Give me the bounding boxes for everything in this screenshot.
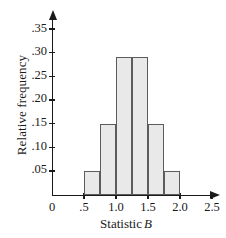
y-tick	[49, 52, 55, 53]
x-tick-label: 1.0	[100, 200, 132, 215]
x-axis-label-symbol: B	[142, 216, 152, 231]
x-tick-label: .5	[68, 200, 100, 215]
x-axis-label: StatisticB	[52, 216, 200, 232]
y-tick	[49, 170, 55, 171]
histogram-bar	[148, 124, 164, 195]
y-tick	[49, 147, 55, 148]
x-tick-label: 1.5	[132, 200, 164, 215]
y-tick	[49, 28, 55, 29]
histogram-bar	[100, 124, 116, 195]
x-axis-line	[52, 195, 212, 196]
histogram-bar	[164, 171, 180, 195]
y-tick	[49, 123, 55, 124]
y-axis-arrow-icon	[49, 10, 57, 20]
x-axis-label-text: Statistic	[100, 216, 142, 231]
y-tick	[49, 99, 55, 100]
y-axis-line	[52, 18, 53, 196]
histogram-figure: .05.10.15.20.25.30.35 0.51.01.52.02.5 Re…	[0, 0, 226, 238]
x-tick	[211, 193, 212, 199]
x-tick-label: 2.0	[164, 200, 196, 215]
histogram-bar	[132, 57, 148, 194]
y-axis-label: Relative frequency	[14, 20, 32, 190]
histogram-bar	[116, 57, 132, 194]
histogram-bar	[84, 171, 100, 195]
y-tick	[49, 76, 55, 77]
x-tick-label: 2.5	[196, 200, 226, 215]
x-tick-label: 0	[36, 200, 68, 215]
plot-area: .05.10.15.20.25.30.35 0.51.01.52.02.5	[0, 0, 226, 238]
